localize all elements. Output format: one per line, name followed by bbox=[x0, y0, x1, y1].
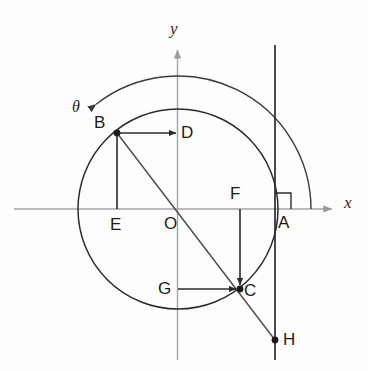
theta-label: θ bbox=[72, 99, 80, 115]
point-label-c: C bbox=[244, 282, 256, 299]
geometry-svg bbox=[0, 0, 368, 371]
point-dot-b bbox=[114, 130, 121, 137]
point-dot-h bbox=[272, 337, 279, 344]
origin-label: O bbox=[164, 215, 177, 232]
y-axis-label: y bbox=[170, 20, 178, 37]
segment-b-to-h bbox=[117, 133, 275, 340]
point-label-b: B bbox=[94, 114, 105, 131]
point-label-a: A bbox=[278, 214, 289, 231]
point-label-h: H bbox=[283, 331, 295, 348]
point-dot-c bbox=[237, 286, 244, 293]
theta-arc bbox=[96, 76, 311, 209]
geometry-diagram-canvas: x y O θ B D E F G C A H bbox=[0, 0, 368, 371]
point-label-f: F bbox=[230, 185, 240, 202]
x-axis-label: x bbox=[344, 194, 352, 211]
point-label-g: G bbox=[158, 280, 171, 297]
point-label-d: D bbox=[181, 124, 193, 141]
point-label-e: E bbox=[110, 216, 121, 233]
